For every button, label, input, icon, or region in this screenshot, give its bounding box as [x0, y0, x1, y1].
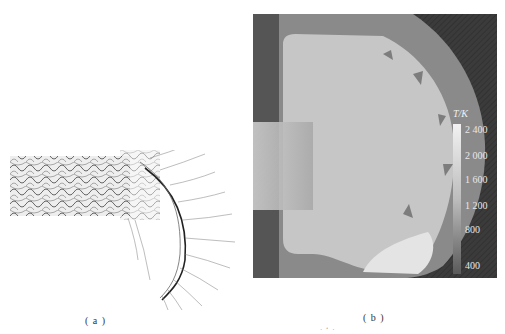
colorbar-title: T/K — [453, 108, 468, 119]
panel-a-caption: ( a ) — [85, 315, 106, 326]
schlieren-graphic — [10, 150, 240, 310]
temperature-field-graphic — [253, 14, 497, 278]
colorbar-tick-2000: 2 000 — [465, 150, 488, 161]
colorbar-tick-800: 800 — [465, 224, 480, 235]
colorbar-tick-1200: 1 200 — [465, 200, 488, 211]
colorbar-tick-2400: 2 400 — [465, 124, 488, 135]
colorbar-tick-1600: 1 600 — [465, 174, 488, 185]
footer-marks: · ‘ · — [320, 326, 336, 334]
colorbar — [453, 124, 461, 274]
panel-b-temperature-contour: T/K 2 400 2 000 1 600 1 200 800 400 — [253, 14, 497, 278]
panel-a-schlieren-image — [10, 150, 240, 310]
panel-b-caption: ( b ) — [363, 312, 385, 323]
colorbar-tick-400: 400 — [465, 260, 480, 271]
